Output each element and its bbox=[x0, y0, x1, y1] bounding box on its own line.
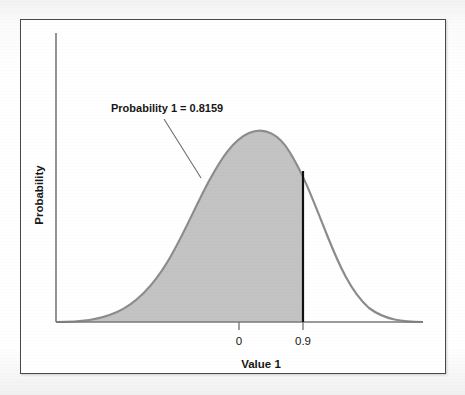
shaded-area-region bbox=[56, 131, 303, 322]
figure-frame: 0 0.9 Value 1 Probability Probability 1 … bbox=[20, 19, 446, 374]
y-axis-title: Probability bbox=[33, 165, 45, 225]
x-tick-label-cut: 0.9 bbox=[295, 335, 311, 347]
page-background: 0 0.9 Value 1 Probability Probability 1 … bbox=[0, 0, 465, 395]
probability-distribution-chart: 0 0.9 Value 1 Probability Probability 1 … bbox=[21, 20, 445, 373]
x-tick-label-zero: 0 bbox=[236, 335, 242, 347]
probability-annotation-label: Probability 1 = 0.8159 bbox=[111, 102, 223, 114]
x-axis-title: Value 1 bbox=[241, 358, 281, 370]
annotation-leader-line bbox=[164, 119, 201, 178]
